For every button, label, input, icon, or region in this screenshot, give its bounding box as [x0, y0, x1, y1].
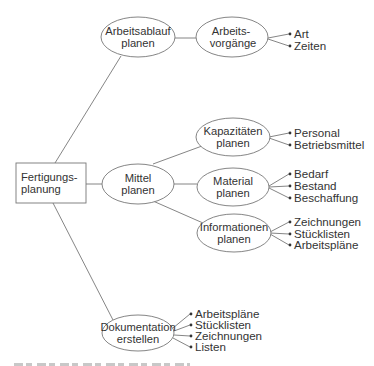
leaf-connector	[268, 39, 289, 46]
connector-mittel-informationen	[153, 201, 203, 223]
node-material-line2: planen	[216, 187, 250, 199]
leaf-connector	[270, 222, 289, 232]
leaf-label: Listen	[195, 340, 226, 353]
leaf-connector	[268, 34, 289, 38]
node-material-line1: Material	[213, 175, 253, 187]
leaf-connector	[174, 335, 190, 336]
node-dokumentation-line2: erstellen	[117, 333, 159, 345]
leaf-connector	[270, 233, 289, 234]
leaf-connector	[174, 325, 190, 331]
node-arbeitsablauf-line1: Arbeitsablauf	[105, 25, 171, 37]
node-mittel-line2: planen	[121, 184, 155, 196]
fertigungsplanung-tree-diagram: Fertigungs- planung Arbeitsablauf planen…	[0, 0, 374, 366]
connector-root-arbeitsablauf	[55, 56, 121, 163]
node-dokumentation-line1: Dokumentation	[100, 321, 175, 333]
leaf-label: Arbeitspläne	[294, 238, 358, 251]
node-arbeitsvorgaenge-line2: vorgänge	[210, 37, 257, 49]
root-label-line1: Fertigungs-	[21, 171, 78, 183]
node-informationen-line2: planen	[217, 233, 251, 245]
connector-mittel-kapazitaeten	[153, 146, 202, 164]
leaf-connector	[269, 138, 289, 145]
node-kapazitaeten-line1: Kapazitäten	[203, 125, 262, 137]
node-mittel-line1: Mittel	[125, 172, 152, 184]
node-arbeitsvorgaenge-line1: Arbeits-	[212, 25, 251, 37]
leaf-connector	[270, 234, 289, 245]
cropped-caption	[14, 362, 190, 366]
node-kapazitaeten-line2: planen	[216, 137, 250, 149]
node-informationen-line1: Informationen	[200, 221, 268, 233]
leaf-connector	[173, 338, 190, 347]
leaf-label: Betriebsmittel	[294, 138, 364, 151]
leaf-connector	[269, 174, 289, 186]
connector-root-dokumentation	[53, 203, 113, 320]
root-label-line2: planung	[21, 183, 61, 195]
leaf-connector	[269, 133, 289, 137]
leaf-connector	[269, 188, 289, 198]
leaf-label: Zeiten	[294, 39, 326, 52]
leaf-label: Beschaffung	[294, 191, 358, 204]
leaf-connector	[269, 186, 289, 187]
node-arbeitsablauf-line2: planen	[121, 37, 155, 49]
